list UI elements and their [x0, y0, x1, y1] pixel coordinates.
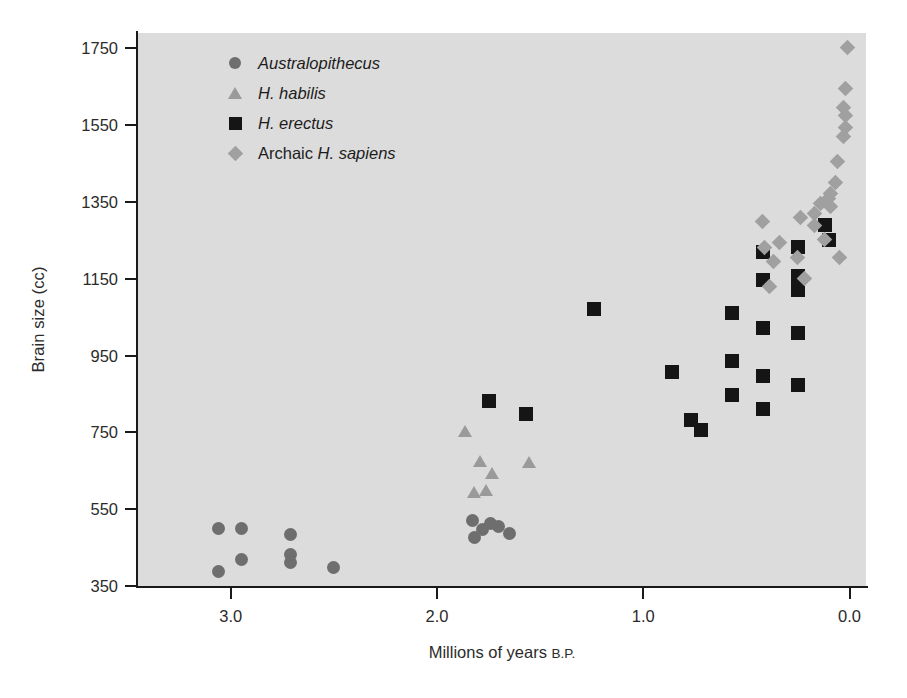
- x-axis-title: Millions of years B.P.: [138, 643, 866, 662]
- y-tick-label: 1750: [48, 40, 118, 57]
- legend-marker-circle-icon: [222, 50, 248, 76]
- x-tick-mark: [436, 588, 438, 599]
- legend-label: H. erectus: [258, 114, 333, 133]
- x-tick-label: 1.0: [613, 608, 673, 625]
- legend-marker-circle-icon: [229, 57, 241, 69]
- data-point-diamond: [765, 254, 780, 269]
- y-tick-label: 350: [48, 578, 118, 595]
- chart-legend: AustralopithecusH. habilisH. erectusArch…: [222, 48, 396, 168]
- data-point-diamond: [807, 217, 822, 232]
- data-point-diamond: [772, 235, 787, 250]
- y-tick-label: 1350: [48, 194, 118, 211]
- legend-label: Archaic H. sapiens: [258, 144, 396, 163]
- data-point-diamond: [840, 40, 855, 55]
- y-tick-mark: [125, 585, 136, 587]
- legend-marker-diamond-icon: [222, 140, 248, 166]
- data-point-diamond: [838, 81, 853, 96]
- y-tick-mark: [125, 508, 136, 510]
- y-tick-label: 1150: [48, 271, 118, 288]
- y-axis-title: Brain size (cc): [29, 220, 48, 420]
- x-axis-title-smallcaps: B.P.: [552, 646, 576, 661]
- x-tick-label: 3.0: [201, 608, 261, 625]
- data-point-diamond: [829, 154, 844, 169]
- legend-label: H. habilis: [258, 84, 326, 103]
- x-axis-title-main: Millions of years: [429, 643, 552, 661]
- legend-marker-square-icon: [222, 110, 248, 136]
- legend-item-diamond[interactable]: Archaic H. sapiens: [222, 138, 396, 168]
- data-point-diamond: [831, 250, 846, 265]
- legend-item-square[interactable]: H. erectus: [222, 108, 396, 138]
- y-axis-line: [136, 31, 138, 588]
- legend-marker-triangle-icon: [222, 80, 248, 106]
- data-point-diamond: [792, 210, 807, 225]
- data-point-diamond: [790, 250, 805, 265]
- y-tick-mark: [125, 47, 136, 49]
- x-tick-mark: [642, 588, 644, 599]
- data-point-diamond: [755, 213, 770, 228]
- legend-label: Australopithecus: [258, 54, 380, 73]
- x-tick-mark: [230, 588, 232, 599]
- data-point-diamond: [761, 279, 776, 294]
- data-point-diamond: [757, 240, 772, 255]
- data-point-diamond: [817, 232, 832, 247]
- y-tick-mark: [125, 355, 136, 357]
- x-tick-label: 2.0: [407, 608, 467, 625]
- legend-marker-triangle-icon: [228, 87, 242, 99]
- legend-label-prefix: Archaic: [258, 144, 318, 162]
- legend-item-circle[interactable]: Australopithecus: [222, 48, 396, 78]
- x-tick-mark: [849, 588, 851, 599]
- y-tick-mark: [125, 201, 136, 203]
- legend-label-taxon: H. sapiens: [318, 144, 396, 162]
- y-tick-label: 750: [48, 424, 118, 441]
- data-point-diamond: [796, 271, 811, 286]
- legend-marker-square-icon: [229, 117, 242, 130]
- y-tick-mark: [125, 431, 136, 433]
- brain-size-scatter-chart: Brain size (cc) Millions of years B.P. 3…: [0, 0, 907, 698]
- y-tick-mark: [125, 124, 136, 126]
- y-tick-mark: [125, 278, 136, 280]
- y-tick-label: 550: [48, 501, 118, 518]
- y-tick-label: 1550: [48, 117, 118, 134]
- x-tick-label: 0.0: [820, 608, 880, 625]
- y-tick-label: 950: [48, 348, 118, 365]
- legend-item-triangle[interactable]: H. habilis: [222, 78, 396, 108]
- x-axis-line: [136, 586, 868, 588]
- legend-marker-diamond-icon: [227, 145, 242, 160]
